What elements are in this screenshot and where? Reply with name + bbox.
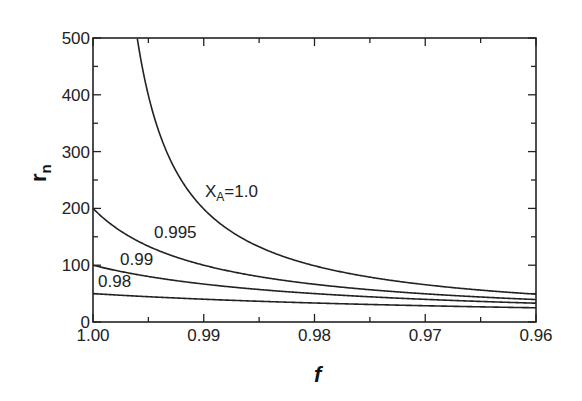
chart: 01002003004005001.000.990.980.970.96 XA=… [0, 0, 582, 401]
label-0.99: 0.99 [120, 250, 153, 269]
y-tick-label: 300 [62, 143, 90, 162]
data-curves [93, 39, 536, 308]
y-tick-label: 100 [62, 256, 90, 275]
x-tick-label: 1.00 [76, 326, 109, 345]
x-tick-label: 0.98 [298, 326, 331, 345]
y-tick-label: 500 [62, 29, 90, 48]
x-tick-label: 0.99 [187, 326, 220, 345]
curve-X_A=1.0 [137, 39, 536, 295]
x-axis-label: f [314, 362, 324, 387]
x-tick-label: 0.97 [409, 326, 442, 345]
y-axis-label: rn [26, 164, 54, 182]
label-xa-1: XA=1.0 [205, 182, 258, 204]
svg-text:rn: rn [26, 164, 54, 182]
y-tick-label: 200 [62, 199, 90, 218]
y-tick-label: 400 [62, 86, 90, 105]
plot-frame [93, 38, 536, 322]
label-0.995: 0.995 [154, 223, 197, 242]
x-tick-label: 0.96 [519, 326, 552, 345]
curve-labels: XA=1.00.9950.990.98 [98, 182, 258, 291]
label-0.98: 0.98 [98, 272, 131, 291]
line-chart: 01002003004005001.000.990.980.970.96 XA=… [0, 0, 582, 401]
